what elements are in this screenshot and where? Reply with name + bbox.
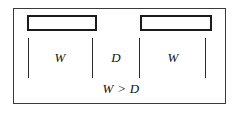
gap-distance-label: D <box>111 51 120 64</box>
inequality-caption: W > D <box>103 81 140 97</box>
right-width-label: W <box>168 51 179 64</box>
dimension-tick-4 <box>205 38 206 78</box>
left-width-bar <box>27 15 97 31</box>
right-width-bar <box>140 15 212 31</box>
diagram-canvas: W D W W > D <box>0 0 240 114</box>
dimension-tick-3 <box>139 38 140 78</box>
dimension-tick-2 <box>92 38 93 78</box>
left-width-label: W <box>55 51 66 64</box>
dimension-tick-1 <box>28 38 29 78</box>
